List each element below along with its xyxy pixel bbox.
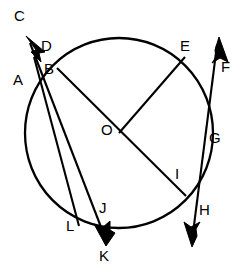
- point-label-J: J: [99, 200, 107, 215]
- geometry-diagram: C D B A E F G H I J L K O: [0, 0, 243, 277]
- point-label-K: K: [99, 248, 109, 263]
- radius-segment-O-E: [119, 57, 185, 133]
- point-label-A: A: [13, 72, 23, 87]
- point-label-D: D: [41, 38, 52, 53]
- point-label-I: I: [175, 166, 179, 181]
- point-label-G: G: [209, 130, 221, 145]
- geometry-canvas: [0, 0, 243, 277]
- point-label-O: O: [101, 122, 113, 137]
- point-label-F: F: [221, 59, 230, 74]
- point-label-L: L: [66, 218, 74, 233]
- secant-line-C-K: [30, 43, 106, 240]
- point-label-C: C: [14, 8, 25, 23]
- point-label-H: H: [199, 202, 210, 217]
- diameter-segment-B-I: [57, 68, 186, 196]
- arrow-to-H-icon: [184, 222, 200, 247]
- point-label-E: E: [180, 38, 190, 53]
- point-label-B: B: [44, 61, 54, 76]
